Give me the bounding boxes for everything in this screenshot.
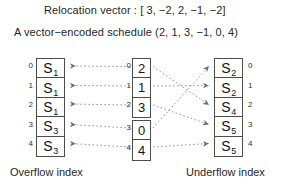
- overflow-index-3: 3: [21, 121, 33, 129]
- overflow-cell-3-label: S3: [43, 119, 57, 133]
- underflow-index-4: 4: [248, 140, 260, 148]
- overflow-index-2: 2: [21, 101, 33, 109]
- middle-cell-3-value: 0: [138, 124, 145, 137]
- underflow-cell-0: S2: [215, 59, 242, 78]
- middle-cell-3: 0: [133, 121, 150, 140]
- middle-stack-group-b: 0 4: [132, 120, 151, 161]
- underflow-cell-4: S5: [215, 137, 242, 156]
- middle-stack-group-a: 2 1 3: [132, 58, 151, 118]
- middle-cell-4: 4: [133, 140, 150, 159]
- underflow-index-0: 0: [248, 62, 260, 70]
- middle-cell-0: 2: [133, 59, 150, 78]
- middle-index-3: 3: [119, 124, 131, 132]
- overflow-cell-1-label: S1: [43, 81, 57, 95]
- overflow-index-caption: Overflow index: [10, 166, 83, 178]
- underflow-index-caption: Underflow index: [186, 166, 265, 178]
- overflow-index-0: 0: [21, 62, 33, 70]
- middle-cell-2: 3: [133, 98, 150, 117]
- overflow-cell-2: S1: [37, 98, 64, 117]
- vector-encoded-schedule-label: A vector−encoded schedule (2, 1, 3, −1, …: [14, 26, 238, 38]
- underflow-cell-4-label: S5: [221, 139, 235, 153]
- underflow-cell-2: S4: [215, 98, 242, 117]
- middle-index-4: 4: [119, 144, 131, 152]
- middle-cell-0-value: 2: [138, 62, 145, 75]
- overflow-index-1: 1: [21, 82, 33, 90]
- overflow-index-4: 4: [21, 140, 33, 148]
- overflow-cell-2-label: S1: [43, 100, 57, 114]
- overflow-cell-0: S1: [37, 59, 64, 78]
- diagram-canvas: Relocation vector : [ 3, −2, 2, −1, −2] …: [0, 0, 287, 187]
- underflow-cell-0-label: S2: [221, 61, 235, 75]
- overflow-cell-0-label: S1: [43, 61, 57, 75]
- underflow-index-1: 1: [248, 82, 260, 90]
- middle-index-1: 1: [119, 82, 131, 90]
- middle-cell-2-value: 3: [138, 101, 145, 114]
- overflow-cell-1: S1: [37, 78, 64, 97]
- overflow-cell-3: S3: [37, 117, 64, 136]
- underflow-cell-3: S5: [215, 117, 242, 136]
- underflow-cell-1: S2: [215, 78, 242, 97]
- underflow-index-3: 3: [248, 121, 260, 129]
- middle-index-0: 0: [119, 62, 131, 70]
- middle-cell-4-value: 4: [138, 144, 145, 157]
- overflow-cell-4-label: S3: [43, 139, 57, 153]
- underflow-cell-1-label: S2: [221, 81, 235, 95]
- relocation-vector-label: Relocation vector : [ 3, −2, 2, −1, −2]: [44, 4, 226, 16]
- underflow-index-stack: S2 S2 S4 S5 S5: [214, 58, 243, 157]
- underflow-index-2: 2: [248, 101, 260, 109]
- middle-index-2: 2: [119, 101, 131, 109]
- overflow-cell-4: S3: [37, 137, 64, 156]
- underflow-cell-2-label: S4: [221, 100, 235, 114]
- underflow-cell-3-label: S5: [221, 119, 235, 133]
- middle-cell-1-value: 1: [138, 81, 145, 94]
- middle-cell-1: 1: [133, 78, 150, 97]
- overflow-index-stack: S1 S1 S1 S3 S3: [36, 58, 65, 157]
